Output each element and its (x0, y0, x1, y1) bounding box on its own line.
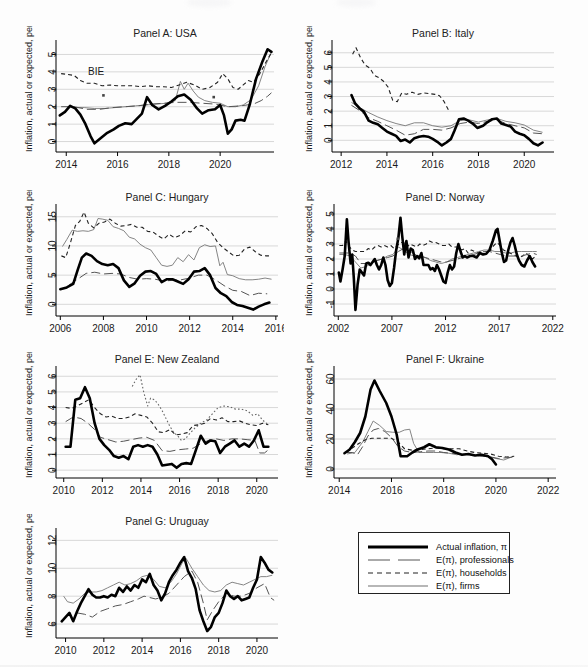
panel-f: Panel F: UkraineInflation, actual or exp… (302, 352, 564, 504)
panel-f-svg: Panel F: UkraineInflation, actual or exp… (302, 352, 564, 504)
series-line-households (346, 438, 514, 457)
series-line-professionals (69, 272, 267, 295)
x-tick-label: 2022 (537, 485, 560, 496)
x-tick-label: 2020 (485, 485, 508, 496)
panel-e-svg: Panel E: New ZealandInflation, actual or… (22, 352, 284, 504)
series-line-actual (60, 49, 272, 143)
x-tick-label: 2012 (93, 645, 116, 656)
y-tick-label: 1 (47, 451, 58, 457)
x-tick-label: 2020 (209, 159, 232, 170)
panel-g-svg: Panel G: UruguayInflation, actual or exp… (22, 514, 284, 664)
y-tick-label: 4 (323, 79, 334, 85)
x-tick-label: 2018 (207, 485, 230, 496)
y-tick-label: 0 (323, 137, 334, 143)
legend-label: E(π), firms (436, 581, 480, 591)
y-tick-label: 6 (47, 373, 58, 379)
legend-item-households: E(π), households (367, 566, 501, 579)
x-tick-label: 2016 (168, 485, 191, 496)
x-tick-label: 2014 (376, 159, 399, 170)
y-tick-label: 1 (47, 121, 58, 127)
panel-c-svg: Panel C: HungaryInflation, actual or exp… (22, 190, 284, 342)
panel-title: Panel C: Hungary (126, 191, 210, 203)
y-tick-label: 20 (325, 433, 336, 445)
x-tick-label: 2022 (542, 323, 564, 334)
series-line-actual (351, 95, 542, 145)
x-tick-label: 2006 (49, 323, 72, 334)
y-tick-label: 10 (47, 562, 58, 574)
y-tick-label: 15 (47, 211, 58, 223)
x-tick-label: 2016 (106, 159, 129, 170)
y-tick-label: 60 (325, 373, 336, 385)
panel-title: Panel B: Italy (412, 27, 475, 39)
y-tick-label: 8 (47, 593, 58, 599)
y-tick-label: 6 (47, 621, 58, 627)
y-axis-label: Inflation, actual or expected, percent (304, 190, 314, 316)
y-tick-label: 12 (47, 534, 58, 546)
y-tick-label: 1 (323, 123, 334, 129)
panel-d-svg: Panel D: NorwayInflation, actual or expe… (302, 190, 564, 342)
panel-e: Panel E: New ZealandInflation, actual or… (22, 352, 284, 504)
y-axis-label: Inflation, actual or expected, percent (24, 190, 34, 316)
x-tick-label: 2010 (54, 645, 77, 656)
x-tick-label: 2014 (328, 485, 351, 496)
x-tick-label: 2016 (422, 159, 445, 170)
panel-title: Panel F: Ukraine (406, 353, 484, 365)
x-tick-label: 2012 (434, 323, 457, 334)
series-line-households (353, 48, 449, 111)
x-tick-label: 2014 (55, 159, 78, 170)
y-tick-label: 0 (47, 138, 58, 144)
panel-c: Panel C: HungaryInflation, actual or exp… (22, 190, 284, 342)
x-tick-label: 2018 (158, 159, 181, 170)
legend-swatch-firms-icon (367, 580, 429, 592)
x-tick-label: 2010 (135, 323, 158, 334)
y-tick-label: 4 (47, 69, 58, 75)
x-tick-label: 2008 (92, 323, 115, 334)
panel-a-svg: Panel A: USAInflation, actual or expecte… (22, 26, 284, 178)
x-tick-label: 2012 (330, 159, 353, 170)
panel-title: Panel E: New Zealand (115, 353, 220, 365)
scan-speck (212, 96, 215, 99)
x-tick-label: 2018 (433, 485, 456, 496)
x-tick-label: 2014 (222, 323, 245, 334)
y-tick-label: 5 (47, 51, 58, 57)
y-tick-label: 6 (323, 50, 334, 56)
y-axis-label: Inflation, actual or expected, percent (304, 352, 314, 478)
y-tick-label: 0 (47, 301, 58, 307)
y-tick-label: 3 (47, 86, 58, 92)
y-tick-label: 4 (47, 404, 58, 410)
x-tick-label: 2016 (380, 485, 403, 496)
y-tick-label: 40 (325, 403, 336, 415)
series-line-professionals (77, 571, 274, 620)
y-axis-label: Inflation, actual or expected, percent (304, 26, 314, 152)
y-tick-label: 5 (325, 211, 336, 217)
x-tick-label: 2012 (91, 485, 114, 496)
series-legend: Actual inflation, πE(π), professionalsE(… (358, 532, 510, 594)
legend-swatch-actual-icon (367, 541, 429, 553)
x-tick-label: 2014 (131, 645, 154, 656)
legend-item-firms: E(π), firms (367, 579, 501, 592)
panel-title: Panel A: USA (133, 27, 197, 39)
y-tick-label: 5 (47, 272, 58, 278)
x-tick-label: 2017 (488, 323, 511, 334)
series-line-households (61, 212, 271, 258)
x-tick-label: 2012 (179, 323, 202, 334)
y-tick-label: 2 (325, 256, 336, 262)
legend-item-actual: Actual inflation, π (367, 540, 501, 553)
y-tick-label: 3 (47, 420, 58, 426)
x-tick-label: 2020 (513, 159, 536, 170)
y-axis-label: Inflation, actual or expected, percent (24, 352, 34, 478)
y-tick-label: 2 (47, 103, 58, 109)
legend-item-professionals: E(π), professionals (367, 553, 501, 566)
series-line-professionals (66, 417, 269, 453)
scan-speck (397, 237, 400, 240)
y-tick-label: -1 (325, 299, 336, 308)
x-tick-label: 2014 (130, 485, 153, 496)
y-axis-label: Inflation, actual or expected, percent (24, 514, 34, 638)
legend-label: E(π), households (436, 568, 507, 578)
series-line-actual (339, 218, 535, 310)
x-tick-label: 2018 (208, 645, 231, 656)
x-tick-label: 2020 (246, 645, 269, 656)
panel-d: Panel D: NorwayInflation, actual or expe… (302, 190, 564, 342)
series-line-firms (68, 52, 272, 109)
panel-b-svg: Panel B: ItalyInflation, actual or expec… (302, 26, 564, 178)
